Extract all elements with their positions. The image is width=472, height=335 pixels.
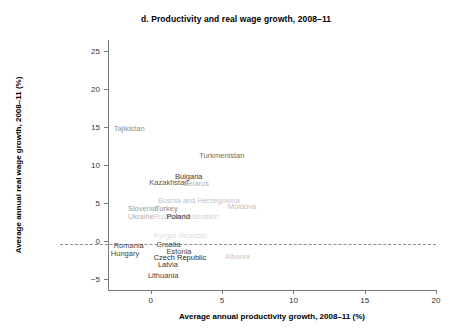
y-tick-mark	[104, 241, 108, 242]
y-axis-title: Average annual real wage growth, 2008–11…	[14, 40, 28, 290]
y-tick-label: 5	[96, 198, 100, 207]
y-axis-line	[108, 40, 109, 290]
y-tick-label: 20	[91, 85, 100, 94]
x-tick-label: 20	[432, 296, 441, 305]
x-tick-label: 0	[149, 296, 153, 305]
scatter-point-label: Lithuania	[148, 272, 178, 280]
y-tick-label: 15	[91, 123, 100, 132]
y-tick-mark	[104, 51, 108, 52]
chart-figure: d. Productivity and real wage growth, 20…	[0, 0, 472, 335]
scatter-point-label: Hungary	[111, 250, 139, 258]
y-tick-mark	[104, 203, 108, 204]
x-tick-label: 5	[220, 296, 224, 305]
x-tick-label: 10	[289, 296, 298, 305]
y-tick-label: 10	[91, 161, 100, 170]
y-tick-label: 0	[96, 236, 100, 245]
y-tick-label: −5	[91, 274, 100, 283]
x-tick-mark	[293, 290, 294, 294]
scatter-point-label: Latvia	[158, 261, 178, 269]
y-tick-mark	[104, 89, 108, 90]
y-tick-label: 25	[91, 47, 100, 56]
scatter-point-label: Belarus	[184, 180, 209, 188]
x-tick-mark	[436, 290, 437, 294]
chart-title: d. Productivity and real wage growth, 20…	[0, 14, 472, 24]
x-tick-mark	[151, 290, 152, 294]
scatter-point-label: Tajikistan	[114, 125, 145, 133]
x-tick-label: 15	[360, 296, 369, 305]
scatter-point-label: Kyrgyz Republic	[154, 232, 208, 240]
x-axis-line	[108, 290, 436, 291]
scatter-point-label: Turkmenistan	[199, 152, 244, 160]
scatter-point-label: Poland	[166, 213, 189, 221]
x-axis-title: Average annual productivity growth, 2008…	[108, 312, 436, 321]
y-tick-mark	[104, 127, 108, 128]
scatter-point-label: Moldova	[228, 203, 256, 211]
x-tick-mark	[365, 290, 366, 294]
y-tick-mark	[104, 279, 108, 280]
y-tick-mark	[104, 165, 108, 166]
scatter-point-label: Albania	[225, 253, 250, 261]
scatter-point-label: Ukraine	[128, 213, 154, 221]
x-tick-mark	[222, 290, 223, 294]
